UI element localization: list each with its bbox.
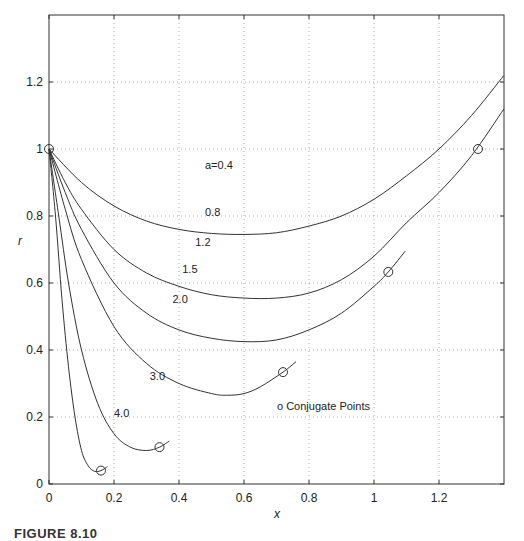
curve-label: 1.5: [182, 263, 197, 275]
axis-ticks: 00.20.40.60.811.200.20.40.60.811.2: [26, 15, 504, 505]
x-tick-label: 1.2: [431, 491, 448, 505]
curve-a-0.8: [49, 75, 504, 234]
curve-a-3.0: [49, 149, 169, 451]
y-tick-label: 0.2: [26, 410, 43, 424]
x-tick-label: 0.4: [171, 491, 188, 505]
y-axis-title: r: [18, 234, 23, 248]
y-tick-label: 0.8: [26, 209, 43, 223]
x-tick-label: 0.8: [301, 491, 318, 505]
y-tick-label: 0.4: [26, 343, 43, 357]
curve-a-1.2: [49, 109, 504, 299]
curve-label: 3.0: [150, 370, 165, 382]
x-axis-title: x: [273, 507, 281, 521]
y-tick-label: 1: [36, 142, 43, 156]
x-tick-label: 0.6: [236, 491, 253, 505]
curve-label: a=0.4: [205, 159, 233, 171]
curve-labels: a=0.40.81.21.52.03.04.0: [114, 159, 233, 419]
curve-label: 1.2: [195, 236, 210, 248]
x-tick-label: 0: [46, 491, 53, 505]
x-tick-label: 1: [371, 491, 378, 505]
conjugate-points-annotation: o Conjugate Points: [277, 400, 370, 412]
y-tick-label: 0: [36, 477, 43, 491]
x-tick-label: 0.2: [106, 491, 123, 505]
y-tick-label: 1.2: [26, 75, 43, 89]
curve-a-1.5: [49, 149, 405, 342]
curve-label: 0.8: [205, 206, 220, 218]
conjugate-point-markers: [45, 145, 483, 476]
figure-caption: FIGURE 8.10: [14, 526, 98, 541]
curve-label: 2.0: [173, 293, 188, 305]
y-tick-label: 0.6: [26, 276, 43, 290]
curve-a-4.0: [49, 149, 108, 472]
curve-label: 4.0: [114, 407, 129, 419]
